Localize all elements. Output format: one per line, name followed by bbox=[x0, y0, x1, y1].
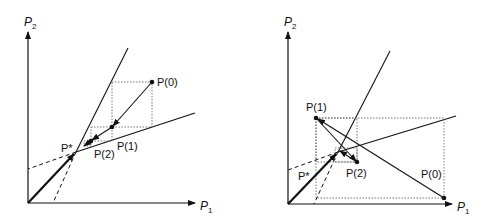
left-label-p2: P(2) bbox=[94, 148, 115, 160]
right-x-axis-label: P1 bbox=[457, 200, 470, 216]
right-point-p1 bbox=[314, 116, 319, 121]
right-label-p2: P(2) bbox=[346, 167, 367, 179]
diagram-canvas: P2 P1 P(0) P(1) P(2) P* P2 P1 bbox=[0, 0, 489, 224]
left-steep-line-dashed bbox=[53, 152, 76, 203]
left-panel: P2 P1 P(0) P(1) P(2) P* bbox=[24, 15, 213, 215]
right-y-axis-label: P2 bbox=[284, 15, 297, 31]
right-panel: P2 P1 P(0) P(1) P(2) P* bbox=[284, 15, 470, 216]
right-point-p0 bbox=[442, 196, 447, 201]
right-label-pstar: P* bbox=[298, 170, 310, 182]
left-point-p2 bbox=[89, 139, 94, 144]
right-label-p1: P(1) bbox=[306, 101, 327, 113]
left-steep-line bbox=[76, 48, 128, 152]
left-label-pstar: P* bbox=[61, 142, 73, 154]
right-label-p0: P(0) bbox=[421, 168, 442, 180]
right-path-p0-p1 bbox=[318, 119, 444, 198]
left-label-p0: P(0) bbox=[157, 76, 178, 88]
left-vector-pstar bbox=[28, 154, 74, 203]
right-point-p2 bbox=[355, 160, 360, 165]
left-path-p1-p2 bbox=[92, 127, 112, 140]
left-y-axis-label: P2 bbox=[24, 15, 37, 31]
left-label-p1: P(1) bbox=[117, 140, 138, 152]
left-x-axis-label: P1 bbox=[200, 199, 213, 215]
right-vector-pstar bbox=[288, 154, 336, 204]
left-path-p0-p1 bbox=[113, 82, 152, 126]
left-point-p1 bbox=[110, 125, 115, 130]
right-shallow-line bbox=[338, 116, 456, 152]
left-point-p0 bbox=[150, 80, 155, 85]
